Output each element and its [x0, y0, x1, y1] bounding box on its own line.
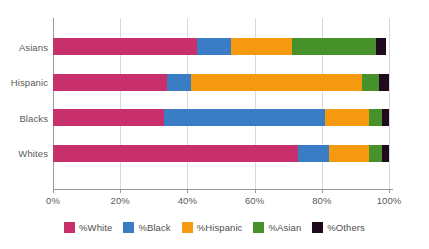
category-label-blacks: Blacks [0, 113, 48, 124]
bar-segment-others [376, 38, 386, 55]
gridline-100 [389, 18, 390, 189]
bar-segment-hispanic [231, 38, 291, 55]
x-tick-label-0pct: 0% [33, 195, 73, 206]
category-label-asians: Asians [0, 42, 48, 53]
bar-segment-hispanic [325, 109, 369, 126]
legend-swatch-icon [123, 222, 134, 233]
stacked-bar-chart: AsiansHispanicBlacksWhites 0%20%40%60%80… [0, 0, 429, 249]
bar-segment-black [167, 74, 191, 91]
bar-segment-asian [369, 109, 382, 126]
tick-mark-80 [322, 189, 323, 193]
bar-segment-others [382, 145, 389, 162]
bar-segment-hispanic [329, 145, 369, 162]
legend-label: %Others [327, 222, 365, 233]
tick-mark-60 [255, 189, 256, 193]
legend-swatch-icon [182, 222, 193, 233]
category-label-hispanic: Hispanic [0, 77, 48, 88]
legend-item-asian[interactable]: %Asian [253, 222, 301, 233]
bar-segment-hispanic [191, 74, 362, 91]
legend-swatch-icon [64, 222, 75, 233]
bar-segment-black [164, 109, 325, 126]
bar-segment-white [53, 109, 164, 126]
legend-item-hispanic[interactable]: %Hispanic [182, 222, 243, 233]
tick-mark-20 [120, 189, 121, 193]
x-tick-label-20pct: 20% [100, 195, 140, 206]
x-tick-label-40pct: 40% [167, 195, 207, 206]
bar-row [53, 145, 389, 162]
legend-swatch-icon [312, 222, 323, 233]
bar-segment-white [53, 74, 167, 91]
bar-segment-asian [292, 38, 376, 55]
legend-label: %Hispanic [197, 222, 243, 233]
tick-mark-100 [389, 189, 390, 193]
bar-segment-others [382, 109, 389, 126]
legend-label: %White [79, 222, 112, 233]
bar-segment-asian [369, 145, 382, 162]
bar-row [53, 109, 389, 126]
x-tick-label-60pct: 60% [235, 195, 275, 206]
legend-item-black[interactable]: %Black [123, 222, 170, 233]
bar-segment-others [379, 74, 389, 91]
tick-mark-0 [53, 189, 54, 193]
legend-label: %Black [138, 222, 170, 233]
legend-item-white[interactable]: %White [64, 222, 112, 233]
bar-segment-white [53, 145, 298, 162]
x-tick-label-100pct: 100% [369, 195, 409, 206]
bar-segment-asian [362, 74, 379, 91]
bar-segment-black [298, 145, 328, 162]
x-tick-label-80pct: 80% [302, 195, 342, 206]
category-label-whites: Whites [0, 148, 48, 159]
chart-legend: %White%Black%Hispanic%Asian%Others [0, 222, 429, 233]
bar-row [53, 74, 389, 91]
bar-segment-white [53, 38, 197, 55]
legend-label: %Asian [268, 222, 301, 233]
bar-row [53, 38, 386, 55]
legend-swatch-icon [253, 222, 264, 233]
x-axis-line [53, 189, 393, 190]
tick-mark-40 [187, 189, 188, 193]
legend-item-others[interactable]: %Others [312, 222, 365, 233]
bar-segment-black [197, 38, 231, 55]
